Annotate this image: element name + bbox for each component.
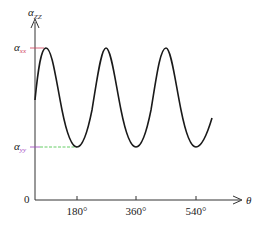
max-label: αxx [14, 41, 27, 55]
y-axis-label: αZZ [28, 6, 42, 21]
origin-label: 0 [24, 193, 30, 205]
tick-label-540: 540° [186, 205, 207, 217]
tick-label-360: 360° [126, 205, 147, 217]
min-label: αyy [14, 140, 27, 154]
x-axis-label: θ [246, 194, 252, 206]
alpha-zz-curve [35, 48, 212, 147]
tick-label-180: 180° [67, 205, 88, 217]
polarizability-diagram: αZZ θ 0 180° 360° 540° αxx αyy [0, 0, 268, 225]
